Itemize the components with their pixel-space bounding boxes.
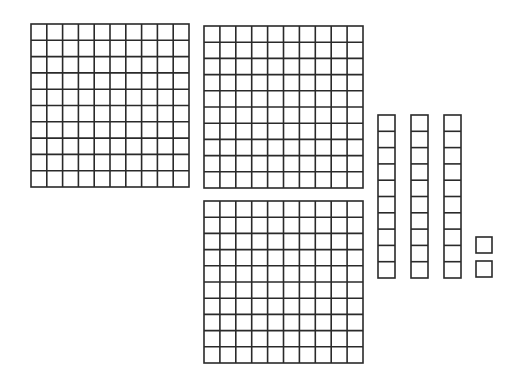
hundreds-flat-3 <box>203 200 364 364</box>
unit-cube-2 <box>475 260 493 278</box>
hundreds-flat-1 <box>30 23 190 188</box>
tens-rod-3 <box>443 114 462 279</box>
unit-cube-1 <box>475 236 493 254</box>
tens-rod-2 <box>410 114 429 279</box>
tens-rod-1 <box>377 114 396 279</box>
hundreds-flat-2 <box>203 25 364 189</box>
